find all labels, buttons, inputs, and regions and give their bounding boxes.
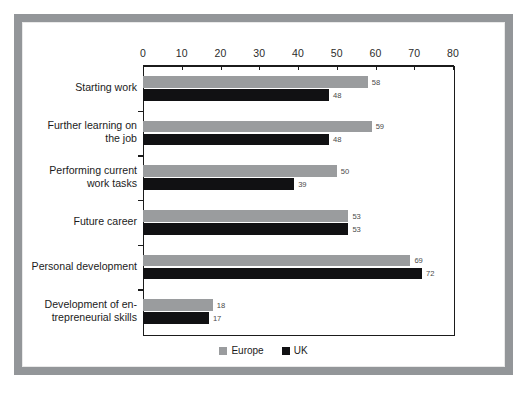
x-axis-tick [182,65,183,70]
category-label-line: the job [22,132,137,145]
category-label-line: trepreneurial skills [22,311,137,324]
x-axis-tick-label: 80 [438,47,468,59]
x-axis-tick [143,65,144,70]
figure-inner-panel: 01020304050607080 Starting work5848Furth… [22,22,505,367]
category-label-line: Development of en- [22,298,137,311]
legend-label: UK [294,345,308,356]
legend-label: Europe [231,345,263,356]
plot-area [143,66,455,336]
figure-outer-frame: 01020304050607080 Starting work5848Furth… [14,14,513,375]
bar-uk [143,268,422,280]
bar-value-label: 58 [372,78,380,87]
legend-swatch [282,347,290,355]
category-label-line: Performing current [22,164,137,177]
category-label-line: Further learning on [22,119,137,132]
bar-uk [143,312,209,324]
x-axis-tick [337,65,338,70]
bar-value-label: 69 [414,256,422,265]
x-axis-tick-label: 70 [399,47,429,59]
bar-chart: 01020304050607080 Starting work5848Furth… [22,22,505,367]
bar-value-label: 53 [352,212,360,221]
category-label-line: Future career [22,215,137,228]
bar-uk [143,89,329,101]
x-axis-tick-label: 20 [206,47,236,59]
category-axis-tick [138,200,144,201]
category-label: Performing currentwork tasks [22,164,143,189]
x-axis-tick-label: 10 [167,47,197,59]
x-axis-tick-label: 40 [283,47,313,59]
bar-value-label: 53 [352,225,360,234]
bar-value-label: 48 [333,91,341,100]
category-label: Future career [22,215,143,228]
bar-uk [143,223,348,235]
bar-europe [143,121,372,133]
bar-europe [143,165,337,177]
x-axis-tick [298,65,299,70]
legend-item: Europe [219,345,263,356]
category-label: Development of en-trepreneurial skills [22,298,143,323]
category-axis-tick [138,155,144,156]
legend-swatch [219,347,227,355]
x-axis-tick-label: 0 [128,47,158,59]
bar-europe [143,210,348,222]
category-label: Starting work [22,81,143,94]
bar-value-label: 48 [333,135,341,144]
bar-value-label: 18 [217,301,225,310]
x-axis-tick-label: 60 [361,47,391,59]
x-axis-tick [453,65,454,70]
category-label: Further learning onthe job [22,119,143,144]
bar-europe [143,76,368,88]
category-label-line: Starting work [22,81,137,94]
category-axis-tick [138,111,144,112]
bar-value-label: 39 [298,180,306,189]
bar-value-label: 72 [426,269,434,278]
category-label-line: work tasks [22,177,137,190]
bar-value-label: 50 [341,167,349,176]
bar-value-label: 59 [376,122,384,131]
category-label: Personal development [22,260,143,273]
chart-legend: EuropeUK [22,344,505,356]
bar-europe [143,255,410,267]
category-axis-tick [138,289,144,290]
x-axis-tick [259,65,260,70]
category-label-line: Personal development [22,260,137,273]
bar-europe [143,299,213,311]
x-axis-tick-label: 50 [322,47,352,59]
category-axis-tick [138,245,144,246]
x-axis-tick [376,65,377,70]
bar-value-label: 17 [213,314,221,323]
bar-uk [143,178,294,190]
x-axis-tick [414,65,415,70]
x-axis-tick-label: 30 [244,47,274,59]
bar-uk [143,134,329,146]
x-axis-tick [221,65,222,70]
legend-item: UK [282,345,308,356]
